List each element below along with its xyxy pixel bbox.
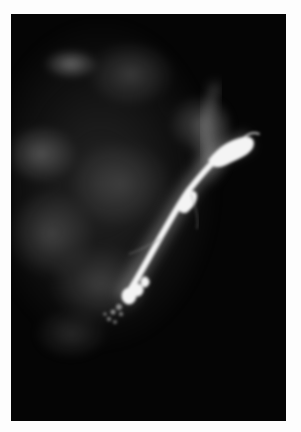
radiograph-image	[11, 14, 286, 421]
contrast-filled-duct	[11, 14, 286, 421]
